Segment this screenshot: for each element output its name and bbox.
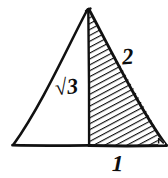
label-hypotenuse-2: 2 [121, 45, 134, 69]
label-base-1: 1 [112, 152, 124, 175]
median-altitude-line [88, 10, 89, 146]
geometry-figure: √3 2 1 [0, 0, 168, 178]
triangle-left-half-outline [13, 10, 90, 146]
triangle-diagram-svg [0, 0, 168, 178]
label-left-side-sqrt3: √3 [54, 75, 79, 99]
radicand-value: 3 [66, 73, 79, 99]
